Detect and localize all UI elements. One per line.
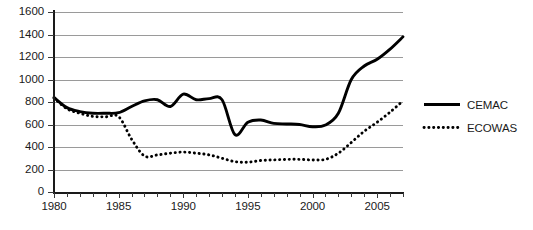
legend-swatch-solid-icon bbox=[424, 99, 460, 110]
plot-area bbox=[54, 12, 403, 192]
x-axis-tick bbox=[403, 193, 404, 197]
series-line-ecowas bbox=[54, 98, 403, 162]
legend-label-cemac: CEMAC bbox=[467, 99, 508, 111]
legend-item-cemac: CEMAC bbox=[424, 93, 532, 116]
legend-label-ecowas: ECOWAS bbox=[467, 122, 517, 134]
x-axis-tick bbox=[377, 193, 378, 198]
x-axis-tick bbox=[287, 193, 288, 197]
y-axis-tick bbox=[48, 80, 54, 81]
x-axis-tick-label: 2000 bbox=[293, 200, 333, 212]
x-axis-tick bbox=[364, 193, 365, 197]
x-axis-tick bbox=[80, 193, 81, 197]
y-axis-tick-label: 1600 bbox=[4, 5, 44, 17]
x-axis-tick-label: 1990 bbox=[163, 200, 203, 212]
y-axis-tick-label: 0 bbox=[4, 185, 44, 197]
x-axis-tick bbox=[157, 193, 158, 197]
x-axis-tick-label: 1995 bbox=[228, 200, 268, 212]
legend-swatch-dotted-icon bbox=[424, 122, 460, 133]
y-axis-tick-label: 1400 bbox=[4, 28, 44, 40]
x-axis-tick-label: 1980 bbox=[34, 200, 74, 212]
x-axis-tick bbox=[106, 193, 107, 197]
x-axis-tick bbox=[119, 193, 120, 198]
x-axis-tick bbox=[274, 193, 275, 197]
y-axis-tick-label: 200 bbox=[4, 163, 44, 175]
legend-item-ecowas: ECOWAS bbox=[424, 116, 532, 139]
x-axis-tick bbox=[93, 193, 94, 197]
x-axis-tick bbox=[261, 193, 262, 197]
x-axis-tick bbox=[351, 193, 352, 197]
x-axis-tick bbox=[222, 193, 223, 197]
chart-legend: CEMAC ECOWAS bbox=[424, 93, 532, 139]
x-axis-tick bbox=[54, 193, 55, 198]
x-axis-tick bbox=[390, 193, 391, 197]
y-axis-tick bbox=[48, 125, 54, 126]
y-axis-tick-label: 1200 bbox=[4, 50, 44, 62]
x-axis-tick bbox=[300, 193, 301, 197]
series-line-cemac bbox=[54, 37, 403, 136]
y-axis-tick bbox=[48, 170, 54, 171]
x-axis-tick bbox=[144, 193, 145, 197]
x-axis-tick bbox=[338, 193, 339, 197]
y-axis-tick-label: 600 bbox=[4, 118, 44, 130]
x-axis-tick bbox=[313, 193, 314, 198]
x-axis-tick-label: 2005 bbox=[357, 200, 397, 212]
x-axis-tick bbox=[248, 193, 249, 198]
y-axis-tick bbox=[48, 147, 54, 148]
chart-figure: 16001400120010008006004002000 1980198519… bbox=[0, 0, 533, 230]
series-layer bbox=[54, 12, 403, 192]
y-axis-tick bbox=[48, 12, 54, 13]
y-axis-tick bbox=[48, 102, 54, 103]
x-axis-tick bbox=[132, 193, 133, 197]
y-axis-tick-label: 800 bbox=[4, 95, 44, 107]
y-axis-tick-label: 1000 bbox=[4, 73, 44, 85]
y-axis-tick-label: 400 bbox=[4, 140, 44, 152]
x-axis-tick-label: 1985 bbox=[99, 200, 139, 212]
x-axis-tick bbox=[235, 193, 236, 197]
x-axis-tick bbox=[183, 193, 184, 198]
x-axis-tick bbox=[209, 193, 210, 197]
y-axis-tick bbox=[48, 35, 54, 36]
x-axis-tick bbox=[196, 193, 197, 197]
x-axis-tick bbox=[170, 193, 171, 197]
y-axis-tick bbox=[48, 57, 54, 58]
x-axis-tick bbox=[67, 193, 68, 197]
x-axis-tick bbox=[325, 193, 326, 197]
